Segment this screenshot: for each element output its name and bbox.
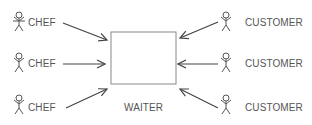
- customer-label-2: CUSTOMER: [245, 58, 303, 70]
- customer-figure-icon-1: [221, 12, 231, 31]
- arrow-chef-3-to-waiter: [66, 89, 107, 108]
- chef-label-2: CHEF: [28, 58, 56, 70]
- chef-figure-icon-1: [13, 12, 25, 31]
- customer-figure-icon-3: [221, 95, 231, 114]
- chef-figure-icon-2: [14, 53, 24, 72]
- chef-label-1: CHEF: [28, 17, 56, 29]
- arrow-chef-1-to-waiter: [63, 23, 107, 40]
- arrow-customer-1-to-waiter: [180, 22, 218, 38]
- customer-label-1: CUSTOMER: [245, 17, 303, 29]
- waiter-label: WAITER: [124, 102, 163, 114]
- waiter-box: [111, 32, 176, 84]
- arrow-customer-3-to-waiter: [180, 89, 218, 108]
- chef-label-3: CHEF: [28, 102, 56, 114]
- chef-figure-icon-3: [14, 95, 24, 114]
- customer-label-3: CUSTOMER: [245, 102, 303, 114]
- customer-figure-icon-2: [221, 53, 231, 72]
